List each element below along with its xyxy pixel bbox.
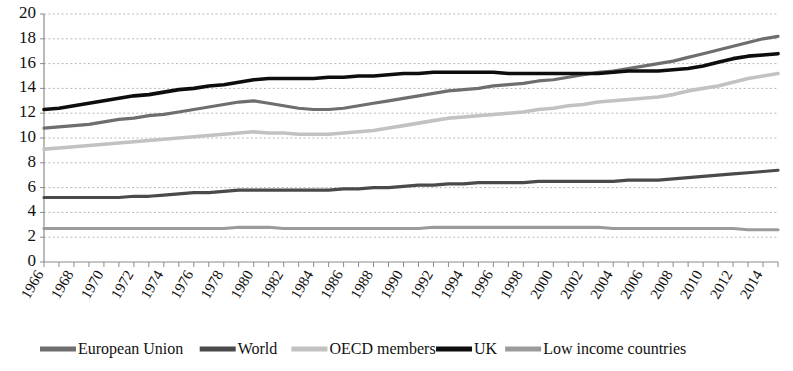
y-tick-label-10: 10 <box>19 127 36 146</box>
series-line-low-income-countries <box>44 227 778 229</box>
y-tick-label-8: 8 <box>28 152 37 171</box>
x-tick-label-1974: 1974 <box>138 267 167 301</box>
x-tick-label-2014: 2014 <box>737 267 766 301</box>
legend-label-european-union: European Union <box>78 340 183 358</box>
x-tick-label-2010: 2010 <box>677 268 706 302</box>
x-tick-label-1982: 1982 <box>257 268 286 302</box>
x-tick-label-2012: 2012 <box>707 268 736 302</box>
x-tick-label-1992: 1992 <box>407 268 436 302</box>
x-tick-label-1984: 1984 <box>287 267 316 301</box>
data-series <box>44 36 778 229</box>
y-tick-label-4: 4 <box>28 201 37 220</box>
y-tick-label-18: 18 <box>19 28 36 47</box>
legend-label-oecd-members: OECD members <box>329 340 435 357</box>
x-tick-label-1990: 1990 <box>377 268 406 302</box>
legend-label-low-income-countries: Low income countries <box>543 340 686 357</box>
y-axis-tick-labels: 02468101214161820 <box>19 3 37 270</box>
line-chart: 02468101214161820 1966196819701972197419… <box>0 0 793 371</box>
x-tick-label-1978: 1978 <box>197 268 226 302</box>
x-tick-label-1998: 1998 <box>497 268 526 302</box>
x-tick-label-2008: 2008 <box>647 268 676 302</box>
y-tick-label-14: 14 <box>19 77 37 96</box>
x-tick-label-1972: 1972 <box>108 268 137 302</box>
x-tick-label-2002: 2002 <box>557 268 586 302</box>
y-tick-label-20: 20 <box>19 3 36 22</box>
y-tick-label-6: 6 <box>28 177 37 196</box>
y-tick-label-2: 2 <box>28 226 37 245</box>
x-axis-tick-labels: 1966196819701972197419761978198019821984… <box>18 267 766 301</box>
x-tick-label-1970: 1970 <box>78 268 107 302</box>
series-line-european-union <box>44 36 778 128</box>
legend-label-uk: UK <box>474 340 498 357</box>
legend-label-world: World <box>238 340 278 357</box>
x-tick-label-1968: 1968 <box>48 268 77 302</box>
y-tick-label-0: 0 <box>28 251 37 270</box>
chart-container: 02468101214161820 1966196819701972197419… <box>0 0 793 371</box>
chart-legend: European UnionWorldOECD membersUKLow inc… <box>40 340 686 358</box>
x-tick-label-2000: 2000 <box>527 268 556 302</box>
x-tick-label-2004: 2004 <box>587 267 616 301</box>
y-tick-label-12: 12 <box>19 102 36 121</box>
x-tick-label-1976: 1976 <box>168 267 197 301</box>
y-tick-label-16: 16 <box>19 53 36 72</box>
x-tick-label-1996: 1996 <box>467 267 496 301</box>
x-tick-label-1994: 1994 <box>437 267 466 301</box>
x-tick-label-1966: 1966 <box>18 267 47 301</box>
x-tick-label-1988: 1988 <box>347 268 376 302</box>
x-tick-label-1986: 1986 <box>317 267 346 301</box>
x-tick-label-2006: 2006 <box>617 267 646 301</box>
x-tick-label-1980: 1980 <box>227 268 256 302</box>
series-line-world <box>44 170 778 197</box>
